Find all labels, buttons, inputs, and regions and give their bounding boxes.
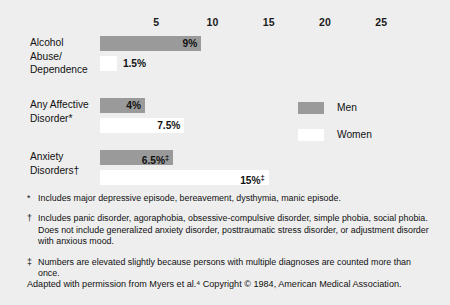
- bar-group: AlcoholAbuse/Dependence9%1.5%: [0, 36, 450, 71]
- legend-swatch-women: [298, 129, 324, 141]
- legend-label: Women: [337, 129, 372, 140]
- bar-value-footnote-marker: ‡: [165, 153, 169, 162]
- footnotes-block: *Includes major depressive episode, bere…: [27, 193, 429, 288]
- footnote-text: Includes panic disorder, agoraphobia, ob…: [38, 213, 429, 246]
- bar-value-text: 6.5%: [142, 155, 165, 166]
- bar-value-text: 7.5%: [157, 120, 180, 131]
- bar-value-text: 4%: [126, 100, 141, 111]
- footnote-marker: †: [27, 213, 32, 224]
- legend-swatch-men: [298, 102, 324, 114]
- category-label-line: Alcohol: [30, 36, 98, 50]
- category-label-line: Anxiety: [30, 150, 98, 164]
- category-label-line: Any Affective: [30, 98, 98, 112]
- bar-value-text: 15%: [240, 175, 260, 186]
- footnote-marker: *: [27, 193, 30, 204]
- bar-track: 15%‡: [100, 170, 393, 185]
- plot-area: AlcoholAbuse/Dependence9%1.5%Any Affecti…: [0, 0, 450, 190]
- footnote: *Includes major depressive episode, bere…: [27, 193, 429, 204]
- category-label: Any AffectiveDisorder*: [30, 98, 98, 125]
- bar-women: [100, 56, 117, 71]
- bar-value-text: 9%: [183, 38, 198, 49]
- category-label: AlcoholAbuse/Dependence: [30, 36, 98, 77]
- bar-chart-figure: 510152025 AlcoholAbuse/Dependence9%1.5%A…: [0, 0, 450, 305]
- legend-item: Women: [298, 127, 418, 142]
- bar-value-label: 4%: [113, 98, 141, 113]
- bar-value-label: 1.5%: [123, 56, 146, 71]
- legend-label: Men: [337, 102, 357, 113]
- footnote-text: Includes major depressive episode, berea…: [38, 193, 341, 203]
- footnote-text: Numbers are elevated slightly because pe…: [38, 257, 411, 278]
- footnote: †Includes panic disorder, agoraphobia, o…: [27, 213, 429, 247]
- bar-track: 1.5%: [100, 56, 393, 71]
- bar-value-label: 7.5%: [152, 118, 180, 133]
- bar-value-label: 9%: [169, 36, 197, 51]
- bar-value-text: 1.5%: [123, 58, 146, 69]
- category-label-line: Disorder*: [30, 112, 98, 126]
- source-attribution: Adapted with permission from Myers et al…: [27, 278, 437, 290]
- footnote: ‡Numbers are elevated slightly because p…: [27, 257, 429, 280]
- legend-item: Men: [298, 100, 418, 115]
- bar-track: 9%: [100, 36, 393, 51]
- bar-value-label: 15%‡: [231, 170, 265, 185]
- category-label-line: Abuse/: [30, 50, 98, 64]
- bar-group: AnxietyDisorders†6.5%‡15%‡: [0, 150, 450, 185]
- category-label-line: Dependence: [30, 63, 98, 77]
- bar-value-footnote-marker: ‡: [261, 173, 265, 182]
- footnote-marker: ‡: [27, 257, 32, 268]
- category-label-line: Disorders†: [30, 164, 98, 178]
- chart-legend: MenWomen: [298, 100, 418, 154]
- bar-value-label: 6.5%‡: [135, 150, 169, 165]
- category-label: AnxietyDisorders†: [30, 150, 98, 177]
